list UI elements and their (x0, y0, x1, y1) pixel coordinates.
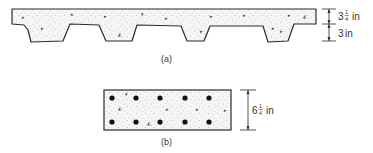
dimension-label-b: 6 1 4 in (252, 103, 274, 116)
rebar (157, 119, 162, 124)
svg-text:◭: ◭ (147, 120, 151, 126)
rebar (133, 95, 138, 100)
rebar (157, 95, 162, 100)
figure-a-ribbed-slab: ▸▸◂ ▸◭▾ ▸▸▸ ▸▸▸ ▸◭ 3 1 4 in 3 (12, 9, 360, 64)
svg-text:▸: ▸ (243, 12, 246, 18)
rebar (206, 95, 211, 100)
rebar (182, 119, 187, 124)
svg-text:▸: ▸ (288, 12, 291, 18)
svg-text:◭: ◭ (118, 105, 122, 111)
diagram-canvas: ▸▸◂ ▸◭▾ ▸▸▸ ▸▸▸ ▸◭ 3 1 4 in 3 (0, 0, 373, 153)
dimension-label-top: 3 1 4 in (338, 9, 360, 22)
dimension-label-bottom: 3 in (338, 28, 353, 39)
svg-text:3: 3 (338, 28, 344, 39)
ribbed-slab-outline (12, 9, 316, 42)
svg-text:▸: ▸ (166, 106, 169, 112)
svg-text:▸: ▸ (200, 28, 203, 34)
figure-b-rectangular-slab: ▾◭▸ ▸◭▸ 6 1 4 in (104, 90, 274, 147)
caption-b: (b) (161, 137, 172, 147)
rebar (182, 95, 187, 100)
svg-text:4: 4 (259, 110, 262, 116)
svg-text:▾: ▾ (141, 11, 144, 17)
rebar (133, 119, 138, 124)
caption-a: (a) (161, 54, 172, 64)
svg-text:in: in (266, 105, 274, 116)
svg-text:▸: ▸ (196, 106, 199, 112)
svg-text:4: 4 (345, 16, 348, 22)
svg-text:◭: ◭ (118, 31, 122, 37)
svg-text:6: 6 (252, 105, 258, 116)
svg-text:▸: ▸ (165, 15, 168, 21)
svg-text:◭: ◭ (303, 13, 307, 19)
svg-text:▸: ▸ (224, 107, 227, 113)
svg-text:▸: ▸ (104, 13, 107, 19)
rebar (109, 119, 114, 124)
rebar (109, 95, 114, 100)
svg-text:▸: ▸ (280, 28, 283, 34)
svg-text:in: in (352, 11, 360, 22)
svg-text:3: 3 (338, 11, 344, 22)
svg-text:▸: ▸ (41, 25, 44, 31)
svg-text:in: in (345, 28, 353, 39)
svg-text:▸: ▸ (272, 25, 275, 31)
svg-text:◂: ◂ (70, 11, 73, 17)
svg-text:▸: ▸ (22, 14, 25, 20)
svg-text:1: 1 (259, 103, 262, 109)
svg-text:▸: ▸ (210, 13, 213, 19)
svg-text:▾: ▾ (125, 91, 128, 97)
svg-text:1: 1 (345, 9, 348, 15)
rebar (206, 119, 211, 124)
